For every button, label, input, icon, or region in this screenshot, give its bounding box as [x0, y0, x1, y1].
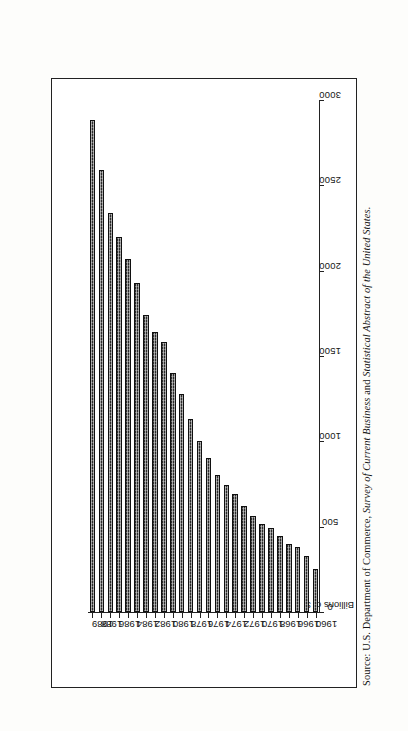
- source-mid: and: [361, 376, 372, 397]
- bar: [108, 212, 114, 611]
- source-italic-survey: Survey of Current Business: [361, 397, 372, 513]
- category-tick: [200, 613, 201, 618]
- source-lead: Source: U.S. Department of Commerce,: [361, 513, 372, 686]
- category-tick: [298, 613, 299, 618]
- bar: [304, 555, 310, 611]
- category-tick-label: 1972: [244, 618, 265, 629]
- bar: [313, 569, 319, 612]
- source-italic-abstract: Statistical Abstract of the United State…: [361, 206, 372, 376]
- category-tick: [253, 613, 254, 618]
- category-tick: [182, 613, 183, 618]
- bar: [215, 475, 221, 612]
- category-tick-label: 1989: [92, 618, 113, 629]
- category-tick: [217, 613, 218, 618]
- bar: [125, 258, 131, 611]
- bar: [152, 332, 158, 612]
- bar: [179, 393, 185, 611]
- bar: [241, 506, 247, 612]
- category-tick: [92, 613, 93, 618]
- value-tick-label: 3000: [319, 90, 341, 101]
- category-tick: [191, 613, 192, 618]
- bar: [268, 528, 274, 612]
- category-tick: [146, 613, 147, 618]
- value-tick-label: 2000: [319, 260, 341, 271]
- bar: [188, 419, 194, 612]
- bar: [259, 524, 265, 612]
- category-tick: [155, 613, 156, 618]
- value-tick-label: 2500: [319, 175, 341, 186]
- bar: [170, 373, 176, 612]
- bar: [277, 536, 283, 612]
- category-tick: [164, 613, 165, 618]
- bar: [224, 484, 230, 611]
- category-tick: [110, 613, 111, 618]
- figure-border-box: Billions of $ 050010001500200025003000 1…: [51, 78, 357, 688]
- category-tick: [289, 613, 290, 618]
- category-tick: [173, 613, 174, 618]
- category-tick: [271, 613, 272, 618]
- category-tick-label: 1986: [119, 618, 140, 629]
- page-background: Billions of $ 050010001500200025003000 1…: [0, 0, 408, 731]
- value-tick-label: 1500: [319, 346, 341, 357]
- source-note: Source: U.S. Department of Commerce, Sur…: [361, 206, 372, 685]
- bar: [116, 236, 122, 611]
- category-tick: [128, 613, 129, 618]
- category-tick: [226, 613, 227, 618]
- bar: [206, 458, 212, 612]
- figure-stage: Billions of $ 050010001500200025003000 1…: [39, 36, 369, 696]
- category-tick-label: 1974: [226, 618, 247, 629]
- category-tick: [137, 613, 138, 618]
- category-tick: [235, 613, 236, 618]
- bar: [143, 315, 149, 612]
- bar: [232, 494, 238, 612]
- bar: [295, 547, 301, 612]
- category-tick: [119, 613, 120, 618]
- bar: [99, 169, 105, 611]
- bar: [197, 441, 203, 612]
- category-tick-label: 1970: [262, 618, 283, 629]
- category-tick: [280, 613, 281, 618]
- value-tick: [319, 612, 324, 613]
- value-tick-label: 1000: [319, 431, 341, 442]
- category-tick: [262, 613, 263, 618]
- category-tick: [101, 613, 102, 618]
- bar: [250, 516, 256, 612]
- bar: [90, 120, 96, 612]
- rotated-figure-wrapper: Billions of $ 050010001500200025003000 1…: [0, 0, 408, 731]
- category-tick: [208, 613, 209, 618]
- bar: [286, 543, 292, 611]
- category-tick: [244, 613, 245, 618]
- category-tick: [307, 613, 308, 618]
- bar: [134, 282, 140, 611]
- bar: [161, 342, 167, 612]
- value-tick-label: 500: [322, 516, 338, 527]
- value-tick-label: 0: [327, 602, 332, 613]
- plot-area: 050010001500200025003000 196019661968197…: [88, 101, 320, 613]
- category-tick: [316, 613, 317, 618]
- category-tick-label: 1984: [137, 618, 158, 629]
